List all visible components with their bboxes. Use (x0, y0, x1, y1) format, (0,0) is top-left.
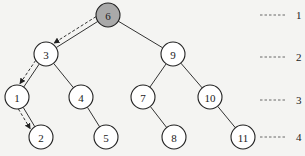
node-label: 10 (205, 92, 217, 104)
node-label: 8 (171, 132, 177, 144)
level-number: 2 (296, 51, 302, 63)
level-number: 3 (296, 94, 302, 106)
level-marker-4: 4 (260, 131, 302, 143)
edge-3-4 (54, 63, 74, 87)
level-marker-1: 1 (260, 9, 302, 21)
edge-10-11 (218, 106, 236, 127)
search-arrow-1-2 (18, 109, 30, 128)
node-label: 1 (14, 92, 20, 104)
level-number: 4 (296, 131, 302, 143)
edge-1-2 (23, 107, 35, 126)
tree-node-6: 6 (96, 3, 120, 27)
tree-node-7: 7 (131, 85, 155, 109)
edge-6-3 (56, 21, 98, 47)
edge-7-8 (150, 106, 166, 127)
tree-node-9: 9 (161, 42, 185, 66)
edge-9-10 (181, 63, 202, 88)
node-label: 5 (103, 132, 109, 144)
level-number: 1 (296, 9, 302, 21)
tree-node-1: 1 (5, 85, 29, 109)
edge-4-5 (87, 107, 99, 127)
level-marker-2: 2 (260, 51, 302, 63)
edge-9-7 (150, 64, 166, 87)
tree-node-5: 5 (94, 125, 118, 149)
tree-node-4: 4 (69, 85, 93, 109)
tree-node-8: 8 (162, 125, 186, 149)
node-label: 2 (38, 132, 44, 144)
tree-node-2: 2 (29, 125, 53, 149)
search-arrow-6-3 (54, 17, 96, 43)
tree-node-11: 11 (231, 125, 255, 149)
node-label: 6 (105, 10, 111, 22)
node-label: 4 (78, 92, 84, 104)
search-path-layer (18, 17, 96, 129)
edges-layer (23, 21, 235, 128)
tree-svg: 6391471025811 1234 (0, 0, 305, 156)
node-label: 11 (238, 132, 249, 144)
node-label: 7 (140, 92, 146, 104)
tree-node-3: 3 (34, 42, 58, 66)
tree-diagram: 6391471025811 1234 (0, 0, 305, 156)
edge-6-9 (118, 21, 162, 48)
nodes-layer: 6391471025811 (5, 3, 255, 149)
level-labels: 1234 (260, 9, 302, 143)
node-label: 9 (170, 49, 176, 61)
level-marker-3: 3 (260, 94, 302, 106)
node-label: 3 (43, 49, 49, 61)
tree-node-10: 10 (198, 85, 222, 109)
